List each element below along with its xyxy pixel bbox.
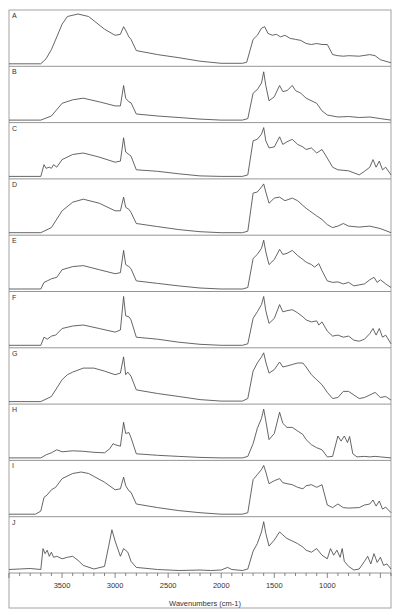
panel-label: B: [12, 68, 17, 75]
spectrum-trace: [9, 240, 391, 289]
spectrum-panel-b: B: [9, 66, 391, 120]
spectrum-trace: [9, 522, 391, 571]
panel-label: E: [12, 237, 17, 244]
x-tick-label: 2500: [160, 581, 177, 590]
spectrum-panel-j: J: [9, 517, 391, 571]
spectrum-panel-d: D: [9, 179, 391, 233]
x-tick-label: 3000: [107, 581, 124, 590]
panel-label: I: [12, 462, 14, 469]
plot-frame: [9, 10, 391, 608]
spectrum-panel-f: F: [9, 292, 391, 346]
x-tick-label: 1500: [266, 581, 283, 590]
spectrum-trace: [9, 128, 391, 177]
spectrum-trace: [9, 465, 391, 514]
panel-label: A: [12, 12, 17, 19]
spectrum-panel-i: I: [9, 460, 391, 514]
spectrum-trace: [9, 297, 391, 346]
spectrum-panel-a: A: [9, 12, 391, 64]
ir-spectra-chart: ABCDEFGHIJ 350030002500200015001000 Wave…: [0, 0, 403, 615]
spectrum-trace: [9, 72, 391, 120]
spectrum-panel-e: E: [9, 235, 391, 289]
panel-label: G: [12, 350, 17, 357]
panel-label: J: [12, 519, 16, 526]
x-tick-label: 3500: [54, 581, 71, 590]
spectrum-panel-c: C: [9, 123, 391, 177]
panel-label: F: [12, 294, 16, 301]
x-tick-label: 2000: [213, 581, 230, 590]
spectrum-trace: [9, 353, 391, 402]
spectra-panels: ABCDEFGHIJ: [9, 10, 391, 608]
x-axis: 350030002500200015001000: [9, 573, 391, 590]
spectrum-trace: [9, 184, 391, 233]
panel-label: D: [12, 181, 17, 188]
spectrum-trace: [9, 14, 391, 64]
spectrum-panel-g: G: [9, 348, 391, 402]
spectrum-trace: [9, 409, 391, 458]
spectrum-panel-h: H: [9, 404, 391, 458]
x-tick-label: 1000: [319, 581, 336, 590]
x-axis-title: Wavenumbers (cm-1): [169, 599, 241, 608]
panel-label: H: [12, 406, 17, 413]
panel-label: C: [12, 125, 17, 132]
